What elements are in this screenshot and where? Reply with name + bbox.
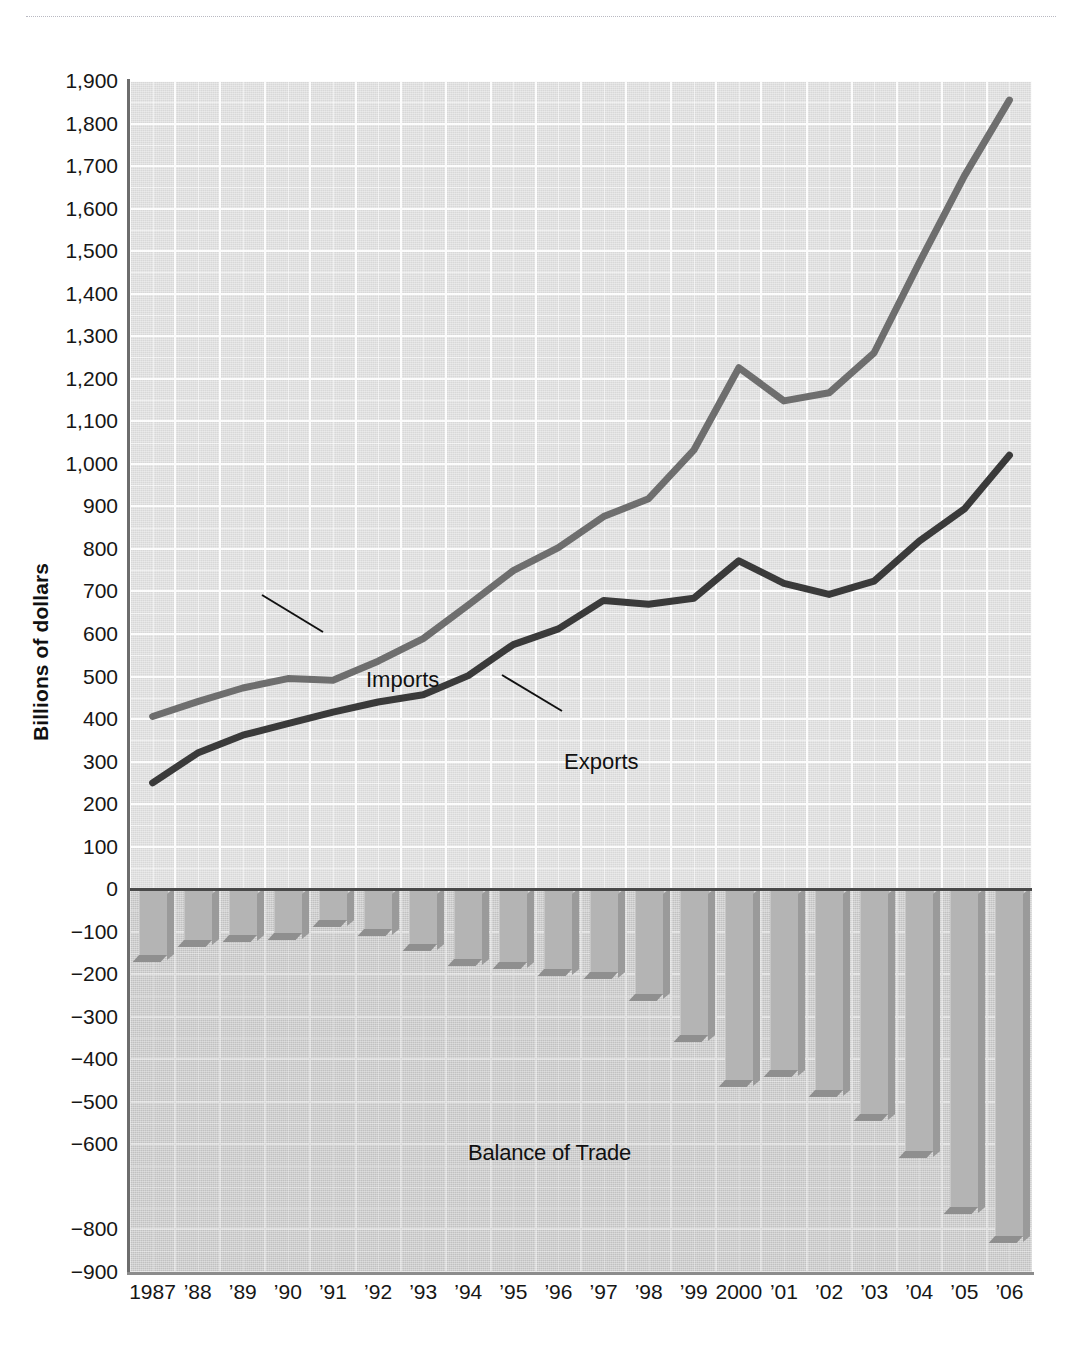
y-tick-label: 1,700 [0, 155, 118, 176]
y-tick-label: 1,800 [0, 113, 118, 134]
y-tick-label: 1,000 [0, 453, 118, 474]
series-lines [130, 81, 1032, 1272]
x-tick-label: ’06 [964, 1281, 1054, 1302]
y-axis-spine [127, 79, 130, 1275]
y-tick-label: 1,200 [0, 368, 118, 389]
y-tick-label: 400 [0, 708, 118, 729]
y-tick-label: 0 [0, 878, 118, 899]
y-tick-label: 100 [0, 836, 118, 857]
y-tick-label: −500 [0, 1091, 118, 1112]
y-tick-label: 1,100 [0, 410, 118, 431]
imports-label: Imports [366, 667, 439, 693]
exports-leader-line [502, 675, 562, 711]
y-tick-label: 700 [0, 580, 118, 601]
x-axis-spine [127, 1272, 1034, 1275]
balance-of-trade-label: Balance of Trade [468, 1140, 631, 1166]
imports-leader-line [262, 595, 323, 632]
y-tick-label: −400 [0, 1048, 118, 1069]
y-tick-label: −200 [0, 963, 118, 984]
y-tick-label: 1,900 [0, 70, 118, 91]
imports-line [153, 100, 1010, 716]
y-tick-label: 200 [0, 793, 118, 814]
y-tick-label: 1,500 [0, 240, 118, 261]
y-tick-label: 300 [0, 751, 118, 772]
y-tick-label: 1,300 [0, 325, 118, 346]
trade-balance-chart: Billions of dollars 1,9001,8001,7001,600… [0, 0, 1082, 1370]
y-tick-label: −300 [0, 1006, 118, 1027]
y-tick-label: −100 [0, 921, 118, 942]
y-axis-title: Billions of dollars [29, 532, 53, 772]
y-tick-label: −800 [0, 1218, 118, 1239]
exports-label: Exports [564, 749, 639, 775]
y-tick-label: 1,600 [0, 198, 118, 219]
y-tick-label: 800 [0, 538, 118, 559]
plot-area: Imports Exports Balance of Trade [130, 81, 1032, 1272]
y-tick-label: −600 [0, 1133, 118, 1154]
exports-line [153, 455, 1010, 783]
y-tick-label: 900 [0, 495, 118, 516]
y-tick-label: 1,400 [0, 283, 118, 304]
y-tick-label: −900 [0, 1261, 118, 1282]
y-tick-label: 600 [0, 623, 118, 644]
y-tick-label: 500 [0, 666, 118, 687]
